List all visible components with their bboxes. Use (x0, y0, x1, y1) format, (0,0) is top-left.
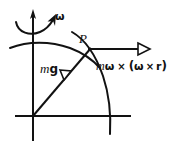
point-p-label: P (79, 32, 87, 45)
earth-surface-arc (72, 32, 110, 134)
omega-label: ω (55, 11, 65, 22)
force-label-omega-1: ω (105, 60, 115, 73)
gravity-label-g: g (49, 62, 58, 76)
force-label-m: m (96, 59, 105, 73)
curved-rotation-arrow (16, 14, 56, 34)
centrifugal-force-arrowhead (138, 43, 150, 55)
physics-diagram-figure: ω P mg mω×(ω×r) (0, 0, 178, 144)
radius-to-point-p (33, 48, 91, 116)
diagram-canvas (0, 0, 178, 144)
rotation-axis-arrow (30, 9, 36, 141)
centrifugal-force-arrow (88, 43, 150, 55)
force-label-omega-2: ω (134, 60, 144, 73)
force-label-times-2: × (146, 61, 154, 72)
gravity-label-m: m (40, 61, 49, 76)
force-label-times-1: × (117, 61, 125, 72)
spin-arc-path (16, 20, 53, 34)
gravity-force-arrowhead (60, 70, 71, 80)
gravity-label: mg (40, 62, 58, 75)
gravity-arrowhead-shape (60, 70, 71, 80)
force-label-close-paren: ) (162, 59, 167, 73)
centrifugal-force-label: mω×(ω×r) (96, 60, 167, 72)
